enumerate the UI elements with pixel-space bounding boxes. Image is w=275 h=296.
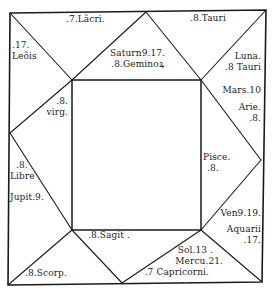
house-label-sagittarius: .8.Sagit . [88, 230, 130, 241]
sign-text: .8.Scorp. [25, 268, 67, 279]
sign-text: Arie. [222, 102, 261, 113]
house-label-cancer: .7.Lãcri. [66, 14, 105, 25]
degree-text: .17. [12, 40, 37, 51]
house-label-aquarius-venus: Ven9.19. Aquarii .17. [221, 208, 262, 246]
house-label-taurus-luna: Luna. .8 Tauri [225, 51, 261, 73]
degree-text: .8. [10, 160, 44, 171]
sign-text: .8.Geminoꝝ [110, 59, 165, 70]
planet-text: Sol.13 . [135, 245, 225, 256]
planet-text: Mercu.21. [135, 256, 225, 267]
degree-text: .8. [40, 96, 68, 107]
sign-text: Leõis [12, 51, 37, 62]
sign-text: .7 Capricorni. [135, 267, 225, 278]
house-label-aries-mars: Mars.10 Arie. .8. [222, 85, 261, 124]
sign-text: Libre [10, 171, 44, 182]
sign-text: .7.Lãcri. [66, 14, 105, 25]
inner-square [72, 80, 201, 230]
degree-text: .17. [221, 235, 262, 246]
sign-text: .8.Sagit . [88, 230, 130, 241]
house-label-pisces: Pisce. .8. [203, 152, 230, 174]
planet-text: Mars.10 [222, 85, 261, 96]
house-label-gemini-saturn: Saturn9.17. .8.Geminoꝝ [110, 48, 165, 70]
sign-text: Pisce. [203, 152, 230, 163]
planet-text: Jupit.9. [10, 192, 44, 203]
degree-text: .8. [203, 163, 230, 174]
planet-text: Luna. [225, 51, 261, 62]
degree-text: .8. [222, 113, 261, 124]
house-label-libra-jupiter: .8. Libre Jupit.9. [10, 160, 44, 203]
house-label-virgo: .8. virg. [40, 96, 68, 118]
house-label-capricorn-sol-mercury: Sol.13 . Mercu.21. .7 Capricorni. [135, 245, 225, 278]
sign-text: Aquarii [221, 224, 262, 235]
planet-text: Ven9.19. [221, 208, 262, 219]
sign-text: virg. [40, 107, 68, 118]
house-label-taurus: .8.Tauri [190, 13, 226, 24]
sign-text: .8 Tauri [225, 62, 261, 73]
planet-text: Saturn9.17. [110, 48, 165, 59]
sign-text: .8.Tauri [190, 13, 226, 24]
house-label-leo: .17. Leõis [12, 40, 37, 62]
house-label-scorpio: .8.Scorp. [25, 268, 67, 279]
